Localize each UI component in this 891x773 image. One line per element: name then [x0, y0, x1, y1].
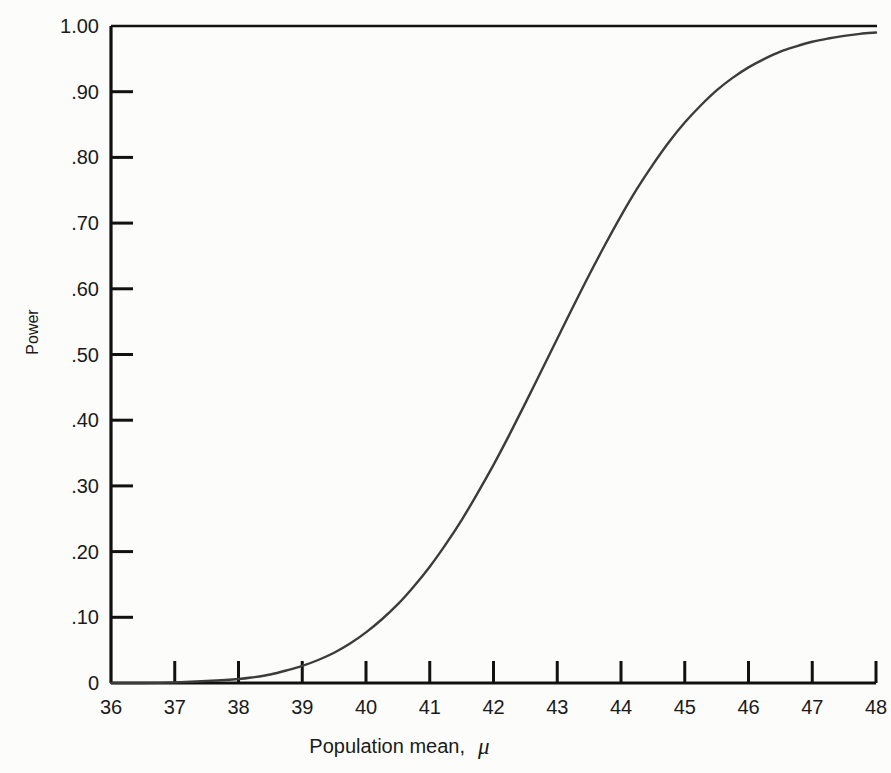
power-curve-figure: 1.00.90.80.70.60.50.40.30.20.100 3637383…: [0, 0, 891, 773]
chart-canvas: 1.00.90.80.70.60.50.40.30.20.100 3637383…: [0, 0, 891, 773]
x-tick-label: 48: [865, 696, 887, 718]
y-axis-tick-labels: 1.00.90.80.70.60.50.40.30.20.100: [60, 15, 99, 694]
y-tick-label: .20: [71, 541, 99, 563]
y-tick-label: .80: [71, 146, 99, 168]
x-tick-label: 39: [291, 696, 313, 718]
y-tick-label: .10: [71, 606, 99, 628]
x-tick-label: 46: [737, 696, 759, 718]
y-axis-title: Power: [24, 309, 41, 355]
axis-lines: [111, 26, 877, 683]
x-tick-label: 41: [419, 696, 441, 718]
y-tick-label: .50: [71, 344, 99, 366]
y-tick-label: .40: [71, 409, 99, 431]
y-tick-label: 0: [88, 672, 99, 694]
x-tick-label: 47: [801, 696, 823, 718]
y-axis-ticks: [111, 92, 133, 618]
power-curve-line: [111, 33, 876, 683]
x-tick-label: 42: [482, 696, 504, 718]
x-tick-label: 45: [674, 696, 696, 718]
y-tick-label: 1.00: [60, 15, 99, 37]
x-tick-label: 43: [546, 696, 568, 718]
x-axis-title: Population mean,: [309, 735, 465, 757]
y-tick-label: .60: [71, 278, 99, 300]
y-tick-label: .30: [71, 475, 99, 497]
y-tick-label: .90: [71, 81, 99, 103]
x-tick-label: 44: [610, 696, 632, 718]
mu-symbol-icon: μ: [477, 734, 490, 759]
x-tick-label: 38: [227, 696, 249, 718]
x-tick-label: 36: [100, 696, 122, 718]
y-tick-label: .70: [71, 212, 99, 234]
x-tick-label: 40: [355, 696, 377, 718]
x-axis-tick-labels: 36373839404142434445464748: [100, 696, 887, 718]
x-tick-label: 37: [164, 696, 186, 718]
